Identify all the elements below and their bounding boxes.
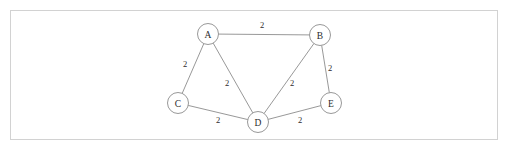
graph-edge-d-e <box>268 106 321 120</box>
edge-weight-a-d: 2 <box>225 78 229 88</box>
edge-weight-a-b: 2 <box>260 20 264 30</box>
node-label-a: A <box>205 30 212 40</box>
edge-weight-c-d: 2 <box>216 115 220 125</box>
graph-edges-layer <box>182 34 329 119</box>
graph-node-c: C <box>168 93 189 114</box>
graph-node-d: D <box>248 112 269 133</box>
node-label-e: E <box>328 99 334 109</box>
graph-nodes-layer: ABCDE <box>168 24 342 133</box>
graph-edge-a-d <box>213 43 253 113</box>
graph-node-a: A <box>198 24 219 45</box>
node-label-c: C <box>175 99 181 109</box>
edge-weight-b-e: 2 <box>328 63 332 73</box>
node-label-d: D <box>255 118 262 128</box>
graph-diagram: 2222222 ABCDE <box>0 0 509 152</box>
edge-weight-b-d: 2 <box>290 78 294 88</box>
graph-edge-a-b <box>219 34 310 35</box>
graph-node-e: E <box>321 93 342 114</box>
edge-weight-a-c: 2 <box>183 59 187 69</box>
edge-weight-d-e: 2 <box>298 115 302 125</box>
node-label-b: B <box>317 31 323 41</box>
graph-node-b: B <box>310 25 331 46</box>
